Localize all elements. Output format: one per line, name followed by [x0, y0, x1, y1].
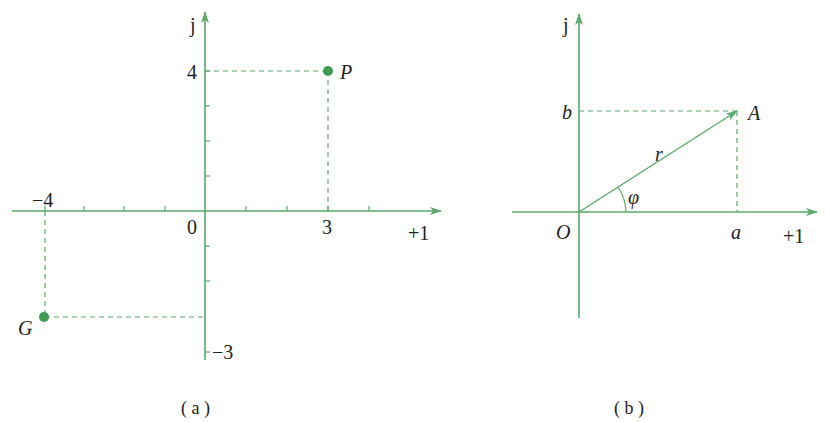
- angle-arc: [618, 187, 626, 212]
- a-y-tick-4: 4: [187, 61, 197, 83]
- a-origin-label: 0: [187, 216, 197, 238]
- a-x-tick-3: 3: [322, 216, 332, 238]
- projection-lines: [45, 71, 328, 317]
- b-y-component-label: b: [562, 101, 572, 123]
- b-origin-label: O: [556, 221, 570, 243]
- a-x-tick-neg4: −4: [32, 189, 53, 211]
- point-p: [323, 66, 333, 76]
- a-y-tick-neg3: −3: [212, 341, 233, 363]
- diagram-a: [12, 12, 441, 360]
- a-point-g-label: G: [18, 317, 33, 339]
- b-magnitude-label: r: [655, 143, 663, 165]
- a-caption: ( a ): [181, 398, 210, 419]
- b-angle-label: φ: [628, 186, 639, 209]
- diagram-b: [512, 14, 817, 318]
- phasor-diagrams: j 4 P −4 0 3 +1 G −3 ( a ) j b A r φ O a…: [0, 0, 825, 422]
- b-vector-label: A: [746, 102, 761, 124]
- b-caption: ( b ): [614, 398, 644, 419]
- a-point-p-label: P: [339, 61, 352, 83]
- a-x-axis-label: +1: [408, 222, 429, 244]
- b-x-component-label: a: [731, 221, 741, 243]
- b-y-axis-label: j: [562, 14, 569, 37]
- point-g: [39, 312, 49, 322]
- a-y-axis-label: j: [189, 14, 196, 37]
- b-x-axis-label: +1: [783, 225, 804, 247]
